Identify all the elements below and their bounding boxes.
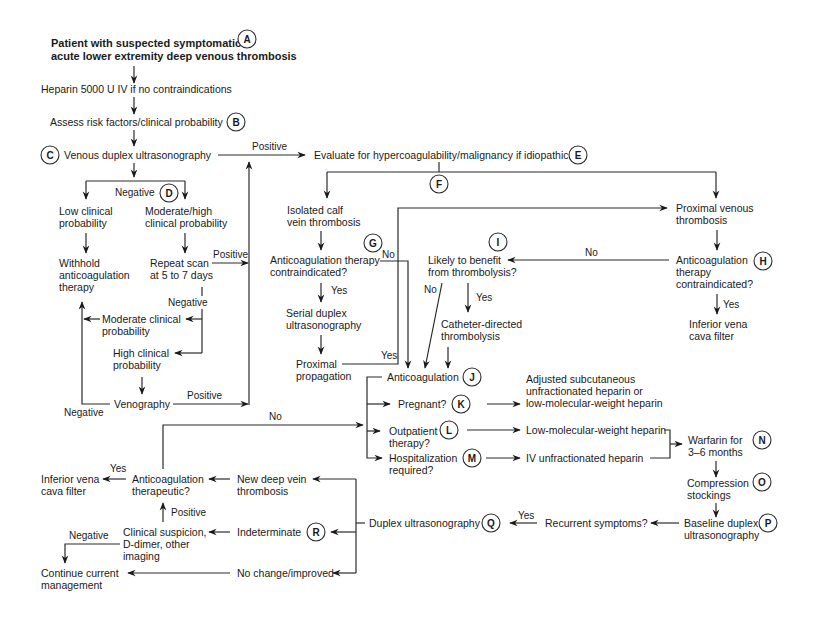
hosp-line1: Hospitalization	[389, 452, 457, 464]
evaluate-node: Evaluate for hypercoagulability/malignan…	[314, 149, 568, 161]
badge-r: R	[307, 523, 325, 541]
badge-h: H	[754, 252, 772, 270]
outpatient-line2: therapy?	[389, 437, 430, 449]
badge-k: K	[452, 395, 470, 413]
svg-text:A: A	[243, 34, 250, 45]
edge-label-yes: Yes	[331, 285, 347, 296]
clinsusp-line2: D-dimer, other	[123, 538, 190, 550]
svg-text:O: O	[758, 477, 766, 488]
likely-line1: Likely to benefit	[428, 254, 501, 266]
continue-line1: Continue current	[41, 567, 119, 579]
edge-label-yes: Yes	[518, 510, 534, 521]
low-prob-line2: probability	[59, 217, 108, 229]
repeat-line1: Repeat scan	[150, 257, 209, 269]
edge-label-no: No	[382, 249, 395, 260]
svg-text:J: J	[469, 372, 475, 383]
svg-text:R: R	[312, 527, 320, 538]
calf-line2: vein thrombosis	[287, 216, 361, 228]
edge-label-positive: Positive	[187, 390, 222, 401]
badge-m: M	[463, 449, 481, 467]
adjusted-line1: Adjusted subcutaneous	[526, 373, 635, 385]
arrow-prop-yes-to-proximal	[342, 208, 667, 364]
svg-text:E: E	[575, 150, 582, 161]
assess-node: Assess risk factors/clinical probability	[50, 116, 223, 128]
dvt-flowchart: Patient with suspected symptomatic acute…	[0, 0, 818, 620]
ivc-line1: Inferior vena	[689, 318, 748, 330]
modhigh-line2: clinical probability	[145, 217, 228, 229]
badge-j: J	[463, 368, 481, 386]
modclin-line1: Moderate clinical	[102, 313, 181, 325]
start-node-line1: Patient with suspected symptomatic	[51, 37, 241, 49]
badge-d: D	[160, 184, 178, 202]
likely-line2: from thrombolysis?	[428, 266, 517, 278]
outpatient-line1: Outpatient	[389, 425, 438, 437]
withhold-line1: Withhold	[59, 257, 100, 269]
ivc2-line1: Inferior vena	[41, 473, 100, 485]
edge-label-negative: Negative	[115, 187, 155, 198]
calf-line1: Isolated calf	[287, 204, 343, 216]
heparin-node: Heparin 5000 U IV if no contraindication…	[41, 83, 232, 95]
edge-label-negative: Negative	[69, 530, 109, 541]
badge-c: C	[41, 146, 59, 164]
modhigh-line1: Moderate/high	[145, 205, 212, 217]
badge-g: G	[364, 234, 382, 252]
serial-line1: Serial duplex	[286, 307, 347, 319]
hosp-line2: required?	[389, 464, 434, 476]
newdvt-line2: thrombosis	[237, 485, 288, 497]
edge-label-negative: Negative	[64, 407, 104, 418]
anticoag-node: Anticoagulation	[387, 371, 459, 383]
recurrent-node: Recurrent symptoms?	[545, 517, 648, 529]
badge-n: N	[753, 431, 771, 449]
compression-line2: stockings	[687, 489, 731, 501]
repeat-line2: at 5 to 7 days	[150, 269, 213, 281]
svg-text:F: F	[436, 179, 442, 190]
edge-label-positive: Positive	[213, 249, 248, 260]
edge-label-yes: Yes	[110, 463, 126, 474]
edge-label-yes: Yes	[723, 299, 739, 310]
svg-text:H: H	[759, 256, 766, 267]
edge-label-no: No	[585, 247, 598, 258]
serial-line2: ultrasonography	[286, 319, 362, 331]
badge-b: B	[227, 113, 245, 131]
prox-prop-line1: Proximal	[296, 358, 337, 370]
proximal-line2: thrombosis	[676, 214, 727, 226]
h-contra-line2: therapy	[676, 266, 712, 278]
svg-text:I: I	[497, 237, 500, 248]
badge-i: I	[489, 233, 507, 251]
badge-e: E	[569, 146, 587, 164]
ivc-line2: cava filter	[689, 330, 734, 342]
edge-label-positive: Positive	[171, 507, 206, 518]
branch-to-hosp	[367, 377, 382, 458]
adjusted-line2: unfractionated heparin or	[526, 385, 643, 397]
highclin-line1: High clinical	[113, 347, 169, 359]
duplex-node: Venous duplex ultrasonography	[64, 149, 212, 161]
ac-thera-line2: therapeutic?	[132, 485, 190, 497]
svg-text:G: G	[369, 238, 377, 249]
svg-text:M: M	[468, 453, 476, 464]
clinsusp-line3: imaging	[123, 550, 160, 562]
badge-q: Q	[482, 514, 500, 532]
badge-o: O	[753, 473, 771, 491]
continue-line2: management	[41, 579, 102, 591]
baseline-line1: Baseline duplex	[684, 517, 759, 529]
baseline-line2: ultrasonography	[684, 529, 760, 541]
badge-p: P	[759, 514, 777, 532]
venography-node: Venography	[114, 398, 171, 410]
svg-text:P: P	[765, 518, 772, 529]
svg-text:Q: Q	[487, 518, 495, 529]
ivufh-node: IV unfractionated heparin	[526, 452, 643, 464]
withhold-line2: anticoagulation	[59, 269, 130, 281]
adjusted-line3: low-molecular-weight heparin	[526, 397, 663, 409]
highclin-line2: probability	[113, 359, 162, 371]
withhold-line3: therapy	[59, 281, 95, 293]
ivc2-line2: cava filter	[41, 485, 86, 497]
modclin-line2: probability	[102, 325, 151, 337]
svg-text:D: D	[165, 188, 172, 199]
duplex2-node: Duplex ultrasonography	[369, 517, 481, 529]
h-contra-line1: Anticoagulation	[676, 254, 748, 266]
svg-text:B: B	[232, 117, 239, 128]
edge-label-negative: Negative	[168, 297, 208, 308]
svg-text:C: C	[46, 150, 53, 161]
warfarin-line2: 3–6 months	[688, 446, 743, 458]
h-contra-line3: contraindicated?	[676, 278, 753, 290]
